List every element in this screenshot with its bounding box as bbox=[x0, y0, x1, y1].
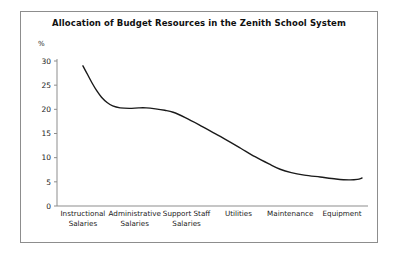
x-axis-category-label: Salaries bbox=[121, 219, 150, 228]
x-axis-category-label: Instructional bbox=[60, 209, 105, 218]
y-axis-tick-label: 30 bbox=[41, 57, 51, 66]
x-axis-category-label: Maintenance bbox=[267, 209, 314, 218]
x-axis-category-label: Utilities bbox=[225, 209, 252, 218]
y-axis-tick-label: 25 bbox=[41, 81, 51, 90]
y-axis-ticks: 051015202530 bbox=[41, 57, 57, 211]
y-axis-tick-label: 10 bbox=[41, 153, 51, 162]
x-axis-category-labels: InstructionalSalariesAdministrativeSalar… bbox=[60, 209, 361, 228]
y-axis-tick-label: 5 bbox=[46, 178, 51, 187]
data-series-line bbox=[83, 66, 362, 180]
x-axis-category-label: Salaries bbox=[172, 219, 201, 228]
x-axis-category-label: Administrative bbox=[109, 209, 162, 218]
x-axis-category-label: Equipment bbox=[323, 209, 362, 218]
y-axis-tick-label: 20 bbox=[41, 105, 51, 114]
x-axis-category-label: Salaries bbox=[69, 219, 98, 228]
line-chart-plot: 051015202530 InstructionalSalariesAdmini… bbox=[0, 0, 398, 258]
y-axis-tick-label: 15 bbox=[41, 129, 51, 138]
y-axis-tick-label: 0 bbox=[46, 202, 51, 211]
chart-figure: Allocation of Budget Resources in the Ze… bbox=[0, 0, 398, 258]
x-axis-category-label: Support Staff bbox=[163, 209, 211, 218]
